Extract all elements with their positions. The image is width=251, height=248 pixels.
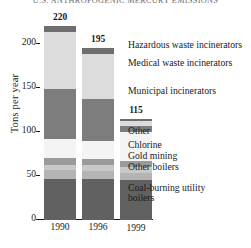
y-tick-200: 200 (6, 38, 36, 48)
bar-1996[interactable]: 195 1996 (82, 48, 114, 220)
segment-other (82, 141, 114, 160)
legend-item-gold-mining[interactable]: Gold mining (128, 151, 177, 162)
segment-municipal-incinerators (82, 99, 114, 140)
legend-item-municipal-incinerators[interactable]: Municipal incinerators (128, 86, 216, 97)
legend-item-chlorine[interactable]: Chlorine (128, 140, 162, 151)
mercury-emissions-chart: U.S. ANTHROPOGENIC MERCURY EMISSIONS Ton… (0, 0, 251, 248)
segment-coal-burning-utility-boilers (44, 179, 76, 220)
segment-coal-burning-utility-boilers (82, 179, 114, 220)
legend-item-medical-waste-incinerators[interactable]: Medical waste incinerators (128, 58, 232, 69)
legend-item-coal-burning-utility-boilers[interactable]: Coal-burning utility boilers (128, 183, 218, 203)
bar-1990[interactable]: 220 1990 (44, 26, 76, 220)
segment-medical-waste-incinerators (82, 54, 114, 100)
bar-value-1990: 220 (40, 12, 80, 22)
segment-municipal-incinerators (44, 89, 76, 139)
y-tick-0: 0 (6, 214, 36, 224)
bar-value-1996: 195 (78, 34, 118, 44)
segment-other-boilers (82, 171, 114, 179)
y-tick-100: 100 (6, 126, 36, 136)
legend-item-hazardous-waste-incinerators[interactable]: Hazardous waste incinerators (128, 40, 242, 51)
segment-other-boilers (44, 170, 76, 179)
segment-other (44, 139, 76, 158)
y-axis-ticks: 0 50 100 150 200 (4, 0, 36, 248)
legend-item-other-boilers[interactable]: Other boilers (128, 162, 179, 173)
segment-medical-waste-incinerators (44, 32, 76, 88)
y-tick-150: 150 (6, 82, 36, 92)
y-tick-50: 50 (6, 170, 36, 180)
legend-item-other[interactable]: Other (128, 126, 150, 137)
chart-legend: Hazardous waste incinerators Medical was… (128, 0, 251, 248)
